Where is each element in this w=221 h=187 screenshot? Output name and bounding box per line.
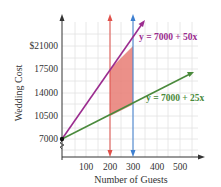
- series-50x-arrow-icon: [139, 20, 146, 27]
- y-tick: 14000: [34, 88, 58, 98]
- y-axis-label: Wedding Cost: [13, 64, 24, 121]
- x-axis-arrow-icon: [198, 155, 205, 160]
- y-tick: 10500: [34, 111, 58, 121]
- x-tick: 500: [173, 162, 188, 172]
- x-tick: 300: [126, 162, 141, 172]
- x300-arrow-up-icon: [131, 14, 136, 21]
- chart: y = 7000 + 50x y = 7000 + 25x $21000 175…: [0, 0, 221, 187]
- eq-50x-label: y = 7000 + 50x: [139, 32, 198, 42]
- x300-arrow-down-icon: [131, 150, 136, 157]
- intercept-point: [60, 137, 64, 141]
- y-tick: 7000: [39, 134, 58, 144]
- y-tick: $21000: [30, 41, 59, 51]
- x200-arrow-up-icon: [108, 14, 113, 21]
- x-tick: 100: [79, 162, 94, 172]
- y-tick: 17500: [34, 64, 58, 74]
- x200-arrow-down-icon: [108, 150, 113, 157]
- eq-25x-label: y = 7000 + 25x: [146, 93, 205, 103]
- x-tick: 400: [150, 162, 165, 172]
- x-axis-label: Number of Guests: [94, 174, 167, 185]
- x-tick: 200: [103, 162, 118, 172]
- y-axis-arrow-icon: [60, 14, 65, 21]
